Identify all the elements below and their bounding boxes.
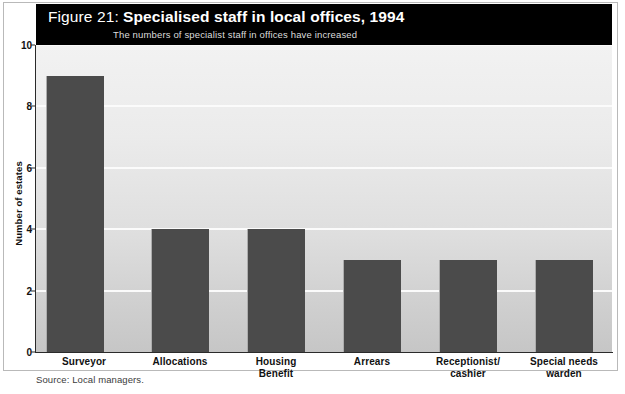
source-note: Source: Local managers. <box>36 374 144 385</box>
y-tick-mark-6 <box>31 167 35 168</box>
x-axis-label: Arrears <box>324 356 420 368</box>
bar <box>535 260 593 352</box>
y-tick-label-10: 10 <box>6 40 32 51</box>
y-tick-label-8: 8 <box>6 101 32 112</box>
y-tick-mark-0 <box>31 352 35 353</box>
x-axis-label: Receptionist/cashier <box>420 356 516 379</box>
y-tick-label-2: 2 <box>6 285 32 296</box>
chart-bars <box>36 45 612 352</box>
y-tick-label-0: 0 <box>6 347 32 358</box>
bar <box>439 260 497 352</box>
bar <box>247 229 305 352</box>
x-axis-label-line: Surveyor <box>36 356 132 368</box>
x-axis-label: Special needswarden <box>516 356 612 379</box>
figure-title-band: Figure 21: Specialised staff in local of… <box>36 4 612 45</box>
x-axis-label-line: Receptionist/ <box>420 356 516 368</box>
y-tick-mark-8 <box>31 106 35 107</box>
x-axis-label-line: Arrears <box>324 356 420 368</box>
x-axis-line <box>35 352 613 353</box>
figure-subtitle: The numbers of specialist staff in offic… <box>113 29 357 40</box>
y-tick-mark-10 <box>31 45 35 46</box>
y-tick-mark-4 <box>31 229 35 230</box>
y-axis-title: Number of estates <box>13 144 24 264</box>
page-title: Specialised staff in local offices, 1994 <box>123 8 404 25</box>
figure-number-label: Figure 21: <box>48 8 119 25</box>
bar <box>343 260 401 352</box>
x-axis-label: HousingBenefit <box>228 356 324 379</box>
x-axis-label-line: cashier <box>420 368 516 380</box>
x-axis-label-line: Housing <box>228 356 324 368</box>
y-tick-mark-2 <box>31 290 35 291</box>
x-axis-label-line: warden <box>516 368 612 380</box>
x-axis-label: Surveyor <box>36 356 132 368</box>
bar <box>46 76 104 352</box>
figure-heading: Figure 21: Specialised staff in local of… <box>48 7 405 26</box>
bar <box>151 229 209 352</box>
x-axis-label: Allocations <box>132 356 228 368</box>
chart-plot-area <box>36 45 612 352</box>
figure-container: Figure 21: Specialised staff in local of… <box>0 0 625 394</box>
x-axis-label-line: Benefit <box>228 368 324 380</box>
x-axis-label-line: Allocations <box>132 356 228 368</box>
x-axis-label-line: Special needs <box>516 356 612 368</box>
y-axis-line <box>35 45 36 353</box>
